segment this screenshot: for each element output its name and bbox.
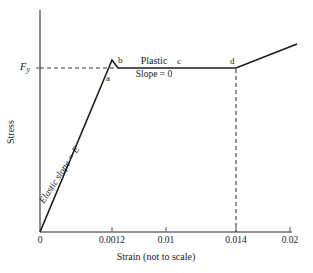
plot-canvas xyxy=(0,0,313,273)
fy-subscript-text: y xyxy=(26,65,29,74)
curve-point-label-c: c xyxy=(177,57,181,66)
x-tick-label-0: 0 xyxy=(38,236,43,246)
curve-point-label-a: a xyxy=(106,74,110,83)
x-tick-label-0014: 0.014 xyxy=(225,236,246,246)
y-axis-title: Stress xyxy=(6,120,16,144)
x-tick-label-00012: 0.0012 xyxy=(99,236,125,246)
plastic-slope-label: Slope = 0 xyxy=(136,70,173,80)
curve-point-label-d: d xyxy=(230,57,235,66)
x-axis-title: Strain (not to scale) xyxy=(117,252,196,262)
stress-strain-figure: Stress Strain (not to scale) 0 0.0012 0.… xyxy=(0,0,313,273)
x-tick-label-002: 0.02 xyxy=(282,236,299,246)
plastic-region-label: Plastic xyxy=(141,56,168,66)
curve-point-label-b: b xyxy=(118,56,123,65)
x-tick-label-001: 0.01 xyxy=(158,236,175,246)
y-tick-label-fy: Fy xyxy=(20,62,30,74)
